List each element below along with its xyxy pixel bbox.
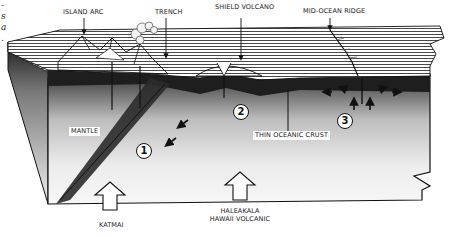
label-haleakala: HALEAKALA bbox=[208, 208, 272, 215]
caption-fragment: - bbox=[1, 0, 4, 11]
caption-fragment: a bbox=[1, 22, 6, 33]
label-katmai: KATMAI bbox=[99, 222, 124, 229]
label-hawaii-volcanic: HAWAII VOLCANIC bbox=[208, 216, 272, 223]
label-trench: TRENCH bbox=[155, 9, 182, 16]
label-island-arc: ISLAND ARC bbox=[63, 9, 103, 16]
marker-2: 2 bbox=[233, 104, 249, 120]
label-mid-ocean-ridge: MID-OCEAN RIDGE bbox=[303, 8, 365, 15]
label-mantle: MANTLE bbox=[69, 127, 100, 136]
marker-3: 3 bbox=[337, 113, 353, 129]
caption-fragment: s bbox=[1, 11, 6, 22]
plate-tectonics-diagram: - s a . ISLAND ARC TRENCH SHIELD VOLCANO… bbox=[0, 0, 449, 238]
block-diagram-art bbox=[0, 0, 449, 238]
marker-1: 1 bbox=[136, 143, 152, 159]
caption-fragment: . bbox=[1, 33, 4, 44]
label-shield-volcano: SHIELD VOLCANO bbox=[215, 4, 274, 11]
label-thin-oceanic-crust: THIN OCEANIC CRUST bbox=[253, 131, 330, 140]
